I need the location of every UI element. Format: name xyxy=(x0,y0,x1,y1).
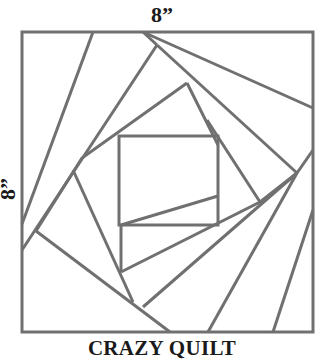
patch-seams xyxy=(22,32,313,332)
quilt-block-diagram xyxy=(0,0,324,363)
diagram-title: CRAZY QUILT xyxy=(0,336,324,361)
